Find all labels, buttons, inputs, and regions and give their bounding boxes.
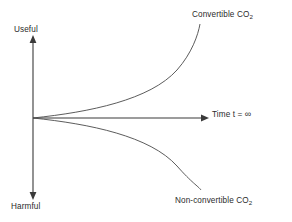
curve-convertible: [33, 24, 200, 118]
curve-label-convertible: Convertible CO2: [192, 11, 253, 19]
curve-label-convertible-subscript: 2: [249, 13, 253, 20]
curve-non-convertible: [33, 118, 201, 190]
y-axis-up-arrow-icon: [30, 35, 37, 43]
y-axis-down-arrow-icon: [30, 192, 37, 200]
curve-label-non-convertible: Non-convertible CO2: [175, 197, 252, 205]
x-axis-right-arrow-icon: [201, 115, 209, 122]
y-axis-bottom-label: Harmful: [11, 203, 40, 211]
x-axis-label: Time t = ∞: [212, 110, 251, 119]
curve-label-convertible-text: Convertible CO: [192, 10, 249, 19]
y-axis-top-label: Useful: [14, 26, 38, 34]
x-axis-label-text: Time t =: [212, 110, 245, 119]
curve-label-non-convertible-subscript: 2: [249, 199, 253, 206]
curve-label-non-convertible-text: Non-convertible CO: [175, 196, 249, 205]
diagram-canvas: Useful Harmful Time t = ∞ Convertible CO…: [0, 0, 292, 222]
infinity-symbol: ∞: [245, 109, 252, 119]
